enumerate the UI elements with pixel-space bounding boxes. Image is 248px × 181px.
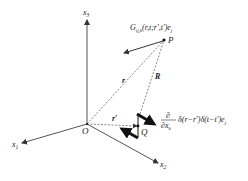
green-function-arrow bbox=[124, 41, 163, 53]
r-prime-label: r′ bbox=[112, 114, 117, 123]
R-label: R bbox=[154, 72, 161, 81]
P-label: P bbox=[167, 35, 174, 45]
x3-label: x3 bbox=[82, 8, 90, 18]
point-P bbox=[162, 38, 165, 41]
x1-label: x1 bbox=[11, 140, 19, 150]
source-derivative-denominator: ∂xk bbox=[161, 121, 172, 131]
Q-label: Q bbox=[141, 127, 148, 137]
point-Q bbox=[137, 125, 140, 128]
source-force-arrow-right bbox=[137, 114, 154, 124]
r-label: r bbox=[122, 76, 126, 85]
R-vector bbox=[140, 40, 164, 114]
x2-label: x2 bbox=[159, 160, 167, 170]
source-delta-expression: δ(r−r′)δ(t−t′)ej bbox=[178, 115, 227, 125]
source-force-arrow-left bbox=[122, 129, 138, 138]
r-prime-vector bbox=[87, 124, 137, 126]
point-O bbox=[86, 123, 88, 125]
diagram-canvas: x3 x1 x2 O P Q r r′ R Gij,k(r,t;r′,t′)ej… bbox=[0, 0, 248, 181]
green-function-label: Gij,k(r,t;r′,t′)ej bbox=[130, 23, 173, 34]
x1-axis bbox=[22, 124, 87, 143]
source-derivative-numerator: ∂ bbox=[166, 111, 170, 120]
origin-label: O bbox=[82, 126, 89, 136]
